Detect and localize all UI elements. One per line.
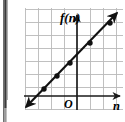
data-point	[41, 86, 46, 91]
data-point	[87, 40, 92, 45]
coordinate-graph-svg: f(n) n O	[0, 0, 125, 122]
origin-label: O	[64, 97, 73, 111]
data-point	[54, 73, 59, 78]
x-axis-label: n	[113, 99, 120, 113]
y-axis-label: f(n)	[60, 10, 80, 25]
data-point	[107, 20, 112, 25]
graph-figure: f(n) n O	[0, 0, 125, 122]
data-point	[67, 60, 72, 65]
